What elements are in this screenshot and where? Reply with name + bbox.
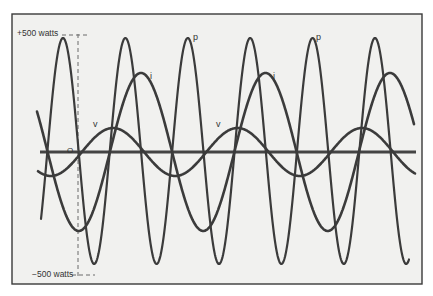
waveform-chart — [0, 0, 433, 296]
i-label-2: i — [273, 71, 275, 81]
minus-500-watts-label: −500 watts — [32, 269, 73, 279]
v-label-2: v — [216, 119, 221, 129]
plus-500-watts-label: +500 watts — [17, 28, 58, 38]
i-label-1: i — [150, 71, 152, 81]
origin-label: O — [67, 146, 73, 155]
v-label-1: v — [93, 119, 98, 129]
p-label-1: p — [193, 32, 198, 42]
p-label-2: p — [316, 32, 321, 42]
